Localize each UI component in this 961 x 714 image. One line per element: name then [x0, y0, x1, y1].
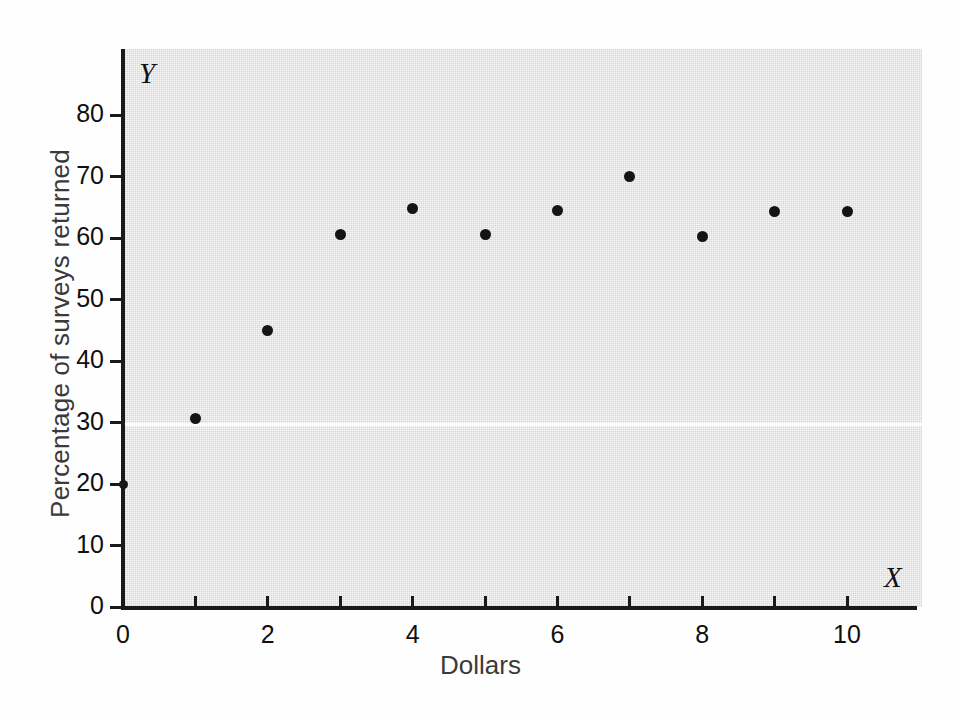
x-tick-label-6: 6 — [527, 620, 587, 649]
scatter-plot-figure: Y X 01020304050607080 0246810 Percentage… — [0, 0, 961, 714]
x-tick-label-8: 8 — [672, 620, 732, 649]
x-tick-label-10: 10 — [817, 620, 877, 649]
x-tick-10 — [846, 596, 849, 610]
x-tick-9 — [773, 596, 776, 610]
y-tick-50 — [110, 298, 124, 301]
x-tick-label-4: 4 — [383, 620, 443, 649]
y-axis-title: Percentage of surveys returned — [45, 94, 76, 574]
data-point-1 — [190, 413, 201, 424]
x-tick-2 — [266, 596, 269, 610]
x-tick-4 — [411, 596, 414, 610]
x-tick-3 — [339, 596, 342, 610]
y-tick-80 — [110, 114, 124, 117]
x-tick-6 — [556, 596, 559, 610]
y-tick-20 — [110, 483, 124, 486]
y-tick-0 — [110, 606, 124, 609]
plot-area — [124, 49, 922, 607]
y-tick-70 — [110, 175, 124, 178]
x-tick-label-2: 2 — [238, 620, 298, 649]
data-point-5 — [480, 229, 491, 240]
x-tick-7 — [628, 596, 631, 610]
data-point-2 — [262, 325, 273, 336]
x-axis-letter: X — [884, 561, 902, 594]
y-tick-40 — [110, 360, 124, 363]
x-tick-8 — [701, 596, 704, 610]
data-point-8 — [697, 231, 708, 242]
scan-artifact-line — [124, 423, 922, 426]
data-point-10 — [842, 206, 853, 217]
y-tick-10 — [110, 544, 124, 547]
data-point-4 — [407, 203, 418, 214]
y-axis-line — [121, 49, 125, 610]
y-tick-30 — [110, 421, 124, 424]
y-tick-60 — [110, 237, 124, 240]
y-axis-letter: Y — [139, 57, 155, 90]
x-axis-title: Dollars — [0, 650, 961, 681]
x-tick-5 — [484, 596, 487, 610]
x-axis-line — [121, 606, 917, 610]
data-point-6 — [552, 205, 563, 216]
x-tick-1 — [194, 596, 197, 610]
x-tick-label-0: 0 — [93, 620, 153, 649]
y-tick-label-0: 0 — [46, 591, 104, 620]
